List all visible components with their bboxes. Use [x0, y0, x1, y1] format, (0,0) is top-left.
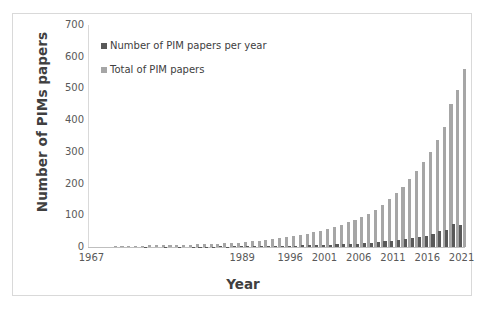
bar-group	[370, 25, 377, 247]
bar-group	[301, 25, 308, 247]
bar-per-year	[445, 230, 448, 247]
legend-swatch-icon-total	[101, 67, 107, 73]
bar-per-year	[425, 236, 428, 247]
bar-per-year	[240, 246, 243, 247]
bar-per-year	[418, 237, 421, 247]
bar-per-year	[294, 246, 297, 247]
y-tick-label: 200	[44, 179, 84, 189]
x-tick-label: 2021	[442, 253, 482, 263]
bar-group	[336, 25, 343, 247]
y-tick-label: 100	[44, 210, 84, 220]
bar-group	[377, 25, 384, 247]
x-axis-line	[88, 247, 465, 248]
x-axis-title: Year	[13, 276, 473, 292]
legend-item-total: Total of PIM papers	[101, 64, 267, 75]
bar-per-year	[383, 241, 386, 247]
y-tick-label: 400	[44, 115, 84, 125]
bar-group	[322, 25, 329, 247]
bar-per-year	[452, 224, 455, 247]
bar-per-year	[267, 246, 270, 247]
bar-group	[288, 25, 295, 247]
bar-group	[411, 25, 418, 247]
bar-per-year	[246, 246, 249, 247]
bar-per-year	[377, 242, 380, 247]
bar-group	[349, 25, 356, 247]
bar-group	[89, 25, 96, 247]
bar-per-year	[274, 246, 277, 247]
bar-per-year	[342, 244, 345, 247]
bar-group	[445, 25, 452, 247]
bar-per-year	[411, 238, 414, 247]
bar-per-year	[260, 246, 263, 247]
bar-per-year	[315, 245, 318, 247]
y-tick-label: 300	[44, 147, 84, 157]
bar-group	[418, 25, 425, 247]
y-tick-label: 500	[44, 83, 84, 93]
bar-group	[267, 25, 274, 247]
bar-group	[391, 25, 398, 247]
bar-per-year	[329, 245, 332, 247]
legend-swatch-icon-per-year	[101, 43, 107, 49]
bar-group	[397, 25, 404, 247]
legend-label-total: Total of PIM papers	[110, 64, 204, 75]
bar-group	[343, 25, 350, 247]
bar-group	[308, 25, 315, 247]
bar-group	[315, 25, 322, 247]
y-tick-label: 600	[44, 52, 84, 62]
bar-group	[356, 25, 363, 247]
bar-group	[404, 25, 411, 247]
bar-per-year	[438, 231, 441, 247]
bar-group	[425, 25, 432, 247]
x-tick-label: 1967	[71, 253, 111, 263]
bar-per-year	[335, 244, 338, 247]
bar-group	[281, 25, 288, 247]
bar-per-year	[356, 244, 359, 247]
chart-legend: Number of PIM papers per year Total of P…	[101, 40, 267, 88]
legend-item-per-year: Number of PIM papers per year	[101, 40, 267, 51]
x-tick-label: 1989	[222, 253, 262, 263]
bar-per-year	[308, 245, 311, 247]
y-tick-label: 0	[44, 242, 84, 252]
bar-per-year	[390, 241, 393, 247]
bar-per-year	[349, 244, 352, 247]
legend-label-per-year: Number of PIM papers per year	[110, 40, 267, 51]
bar-per-year	[431, 234, 434, 247]
bar-group	[384, 25, 391, 247]
bar-group	[452, 25, 459, 247]
bar-per-year	[219, 246, 222, 247]
bar-total	[463, 69, 466, 247]
bar-per-year	[253, 246, 256, 247]
bar-per-year	[404, 239, 407, 247]
y-tick-label: 700	[44, 20, 84, 30]
chart-frame: Number of PIMs papers 010020030040050060…	[12, 13, 472, 296]
bar-per-year	[322, 245, 325, 247]
bar-per-year	[363, 243, 366, 247]
bar-group	[295, 25, 302, 247]
bar-group	[459, 25, 466, 247]
bar-group	[363, 25, 370, 247]
bar-per-year	[397, 240, 400, 247]
bar-per-year	[281, 246, 284, 247]
bar-per-year	[301, 245, 304, 247]
bar-per-year	[233, 246, 236, 247]
bar-group	[432, 25, 439, 247]
bar-per-year	[288, 246, 291, 247]
bar-per-year	[459, 225, 462, 247]
bar-per-year	[370, 243, 373, 247]
bar-group	[329, 25, 336, 247]
bar-group	[274, 25, 281, 247]
bar-group	[439, 25, 446, 247]
